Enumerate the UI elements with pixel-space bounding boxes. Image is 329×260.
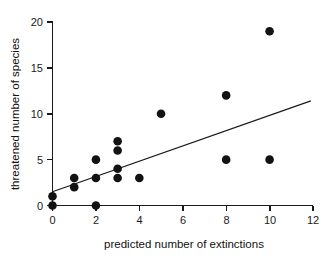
data-point: [157, 109, 166, 118]
x-tick-label: 4: [136, 214, 142, 226]
data-point: [70, 183, 79, 192]
data-point: [135, 174, 144, 183]
y-tick-label: 10: [31, 108, 43, 120]
x-tick-label: 6: [180, 214, 186, 226]
x-axis-ticks: [53, 206, 314, 212]
data-point: [113, 137, 122, 146]
regression-line: [53, 101, 311, 192]
x-tick-label: 0: [49, 214, 55, 226]
scatter-plot-figure: 20 15 10 5 0 0 2 4 6 8 10 12 predicted n…: [0, 0, 329, 260]
data-point: [113, 174, 122, 183]
y-axis-title: threatened number of species: [9, 38, 21, 190]
y-axis-tick-labels: 20 15 10 5 0: [31, 16, 43, 212]
data-points-group: [48, 27, 274, 210]
data-point: [113, 146, 122, 155]
y-tick-label: 5: [37, 154, 43, 166]
x-axis-title: predicted number of extinctions: [104, 238, 264, 250]
data-point: [265, 155, 274, 164]
x-tick-label: 10: [264, 214, 276, 226]
x-tick-label: 12: [307, 214, 319, 226]
data-point: [92, 174, 101, 183]
y-tick-label: 20: [31, 16, 43, 28]
y-axis-ticks: [47, 22, 53, 206]
x-axis-tick-labels: 0 2 4 6 8 10 12: [49, 214, 319, 226]
y-tick-label: 0: [37, 200, 43, 212]
data-point: [222, 155, 231, 164]
plot-canvas: 20 15 10 5 0 0 2 4 6 8 10 12 predicted n…: [0, 0, 329, 260]
data-point: [48, 201, 57, 210]
y-tick-label: 15: [31, 62, 43, 74]
data-point: [92, 155, 101, 164]
data-point: [113, 165, 122, 174]
x-tick-label: 8: [223, 214, 229, 226]
data-point: [48, 192, 57, 201]
data-point: [92, 201, 101, 210]
data-point: [222, 91, 231, 100]
x-tick-label: 2: [93, 214, 99, 226]
data-point: [265, 27, 274, 36]
data-point: [70, 174, 79, 183]
